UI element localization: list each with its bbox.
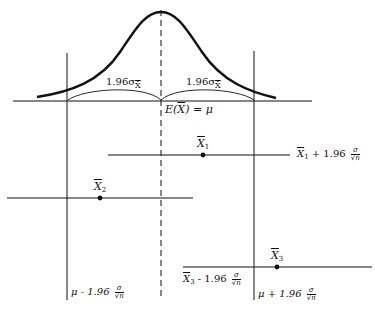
sample-2-point <box>98 196 103 201</box>
fraction-denominator: √n <box>351 155 360 162</box>
sample-2-label: X2 <box>94 181 106 194</box>
sample-3-index: 3 <box>279 255 283 263</box>
sample-2-index: 2 <box>102 186 106 194</box>
upper-bound-label: μ + 1.96 σ√n <box>258 287 316 302</box>
lower-bound-label: μ - 1.96 σ√n <box>71 285 124 300</box>
sigma-over-root-n: σ√n <box>351 147 360 162</box>
sigma-over-root-n: σ√n <box>232 272 241 287</box>
sample-2-name: X <box>94 180 102 193</box>
right-half-width-brace <box>161 90 254 100</box>
sigma-over-root-n: σ√n <box>307 287 316 302</box>
sample-3-lower-op: - 1.96 <box>198 273 227 284</box>
expected-value-label: E(X) = μ <box>165 104 213 115</box>
right-half-width-label: 1.96σX̄ <box>186 77 221 90</box>
sample-1-upper-index: 1 <box>304 153 308 161</box>
fraction-denominator: √n <box>232 280 241 287</box>
sample-1-upper-label: X1 + 1.96 σ√n <box>297 147 360 162</box>
sample-3-lower-label: X3 - 1.96 σ√n <box>183 272 241 287</box>
sample-3-label: X3 <box>271 250 283 263</box>
left-half-width-brace <box>68 90 161 100</box>
expected-value-lhs: E( <box>165 103 177 116</box>
sample-1-upper-op: + 1.96 <box>312 148 346 159</box>
expected-value-rhs: ) = μ <box>185 103 213 116</box>
left-half-width-subscript: X̄ <box>135 81 141 90</box>
upper-bound-prefix: μ + 1.96 <box>258 288 302 299</box>
sample-1-point <box>201 153 206 158</box>
left-half-width-label: 1.96σX̄ <box>106 77 141 90</box>
expected-value-var: X <box>177 103 185 116</box>
sample-1-index: 1 <box>205 143 209 151</box>
sample-1-label: X1 <box>197 138 209 151</box>
fraction-denominator: √n <box>307 295 316 302</box>
lower-bound-prefix: μ - 1.96 <box>71 286 110 297</box>
fraction-denominator: √n <box>115 293 124 300</box>
right-half-width-subscript: X̄ <box>215 81 221 90</box>
sample-3-point <box>275 265 280 270</box>
sample-3-name: X <box>271 249 279 262</box>
left-half-width-value: 1.96σ <box>106 76 135 87</box>
sample-3-lower-index: 3 <box>190 278 194 286</box>
sigma-over-root-n: σ√n <box>115 285 124 300</box>
right-half-width-value: 1.96σ <box>186 76 215 87</box>
sample-1-name: X <box>197 137 205 150</box>
normal-curve <box>37 12 276 98</box>
